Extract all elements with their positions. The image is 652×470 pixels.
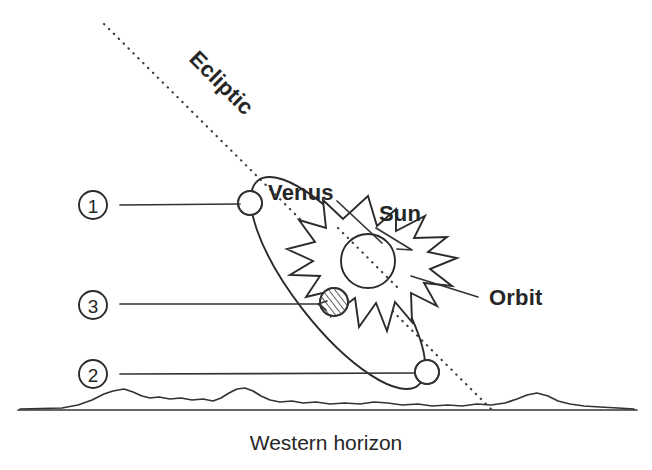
horizon-terrain-profile (20, 388, 634, 409)
sun-group (287, 196, 457, 331)
venus-position-2-group (415, 360, 439, 384)
western-horizon-caption: Western horizon (250, 431, 403, 454)
horizon-group (18, 388, 637, 410)
marker-2-label: 2 (88, 365, 99, 386)
leader-line-1 (120, 204, 240, 205)
venus-label: Venus (268, 180, 334, 205)
ecliptic-label: Ecliptic (184, 46, 258, 120)
orbit-label: Orbit (489, 285, 543, 310)
leader-line-2 (120, 373, 415, 374)
ecliptic-line-group (104, 24, 491, 409)
marker-1[interactable]: 1 (79, 191, 107, 219)
marker-2[interactable]: 2 (79, 360, 107, 388)
ecliptic-dotted-line (104, 24, 491, 409)
sun-core-disc (341, 234, 395, 288)
marker-1-label: 1 (88, 196, 99, 217)
marker-3[interactable]: 3 (79, 291, 107, 319)
sun-label: Sun (379, 201, 421, 226)
venus-elongation-diagram: 1 3 2 Venus Sun Orbit Ecliptic (0, 0, 652, 470)
astronomy-diagram-root: 1 3 2 Venus Sun Orbit Ecliptic (0, 0, 652, 470)
marker-3-label: 3 (88, 296, 99, 317)
ecliptic-label-group: Ecliptic (184, 46, 258, 120)
venus-position-1-group (238, 191, 262, 215)
